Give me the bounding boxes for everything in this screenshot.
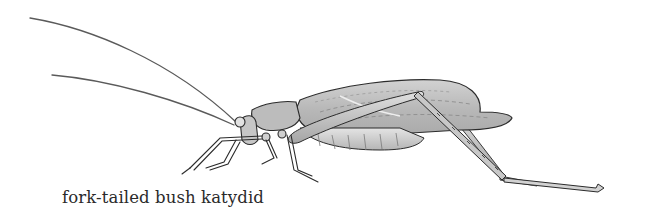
figure-caption: fork-tailed bush katydid [62,188,264,207]
hind-tarsus [504,178,604,192]
eye [235,117,245,127]
pronotum [252,101,300,130]
antenna-lower [52,75,234,125]
antenna-upper [30,18,236,122]
antennae [30,18,236,125]
